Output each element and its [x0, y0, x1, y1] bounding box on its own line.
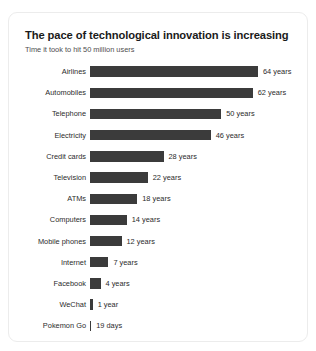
bar-track: 62 years	[90, 82, 308, 103]
bar-value-label: 12 years	[127, 231, 155, 252]
bar-row: Internet7 years	[9, 252, 308, 273]
bar-fill	[90, 130, 211, 140]
bar-category-label: Computers	[9, 209, 86, 230]
bar-value-label: 46 years	[216, 125, 244, 146]
bar-category-label: Mobile phones	[9, 231, 86, 252]
bar-track: 19 days	[90, 315, 308, 336]
bar-track: 7 years	[90, 252, 308, 273]
bar-fill	[90, 172, 148, 182]
bar-track: 46 years	[90, 125, 308, 146]
bar-fill	[90, 236, 122, 246]
bar-fill	[90, 299, 93, 309]
bar-category-label: Airlines	[9, 61, 86, 82]
bar-fill	[90, 88, 253, 98]
bar-row: Electricity46 years	[9, 125, 308, 146]
bar-value-label: 62 years	[258, 82, 286, 103]
bar-category-label: Automobiles	[9, 82, 86, 103]
bar-value-label: 18 years	[142, 188, 170, 209]
chart-card: The pace of technological innovation is …	[8, 12, 308, 342]
bar-track: 50 years	[90, 103, 308, 124]
bar-row: Credit cards28 years	[9, 146, 308, 167]
bar-row: Automobiles62 years	[9, 82, 308, 103]
bar-value-label: 19 days	[96, 315, 122, 336]
bar-value-label: 64 years	[263, 61, 291, 82]
bar-row: Computers14 years	[9, 209, 308, 230]
bar-track: 18 years	[90, 188, 308, 209]
bar-fill	[90, 66, 258, 76]
bar-row: Television22 years	[9, 167, 308, 188]
bar-row: Facebook4 years	[9, 273, 308, 294]
bar-track: 1 year	[90, 294, 308, 315]
bar-row: Pokemon Go19 days	[9, 315, 308, 336]
bar-category-label: Internet	[9, 252, 86, 273]
bar-track: 4 years	[90, 273, 308, 294]
bar-fill	[90, 215, 127, 225]
bar-track: 28 years	[90, 146, 308, 167]
bar-category-label: Telephone	[9, 103, 86, 124]
bar-value-label: 4 years	[106, 273, 130, 294]
bar-chart-plot-area: Airlines64 yearsAutomobiles62 yearsTelep…	[9, 61, 308, 341]
bar-fill	[90, 194, 137, 204]
bar-category-label: Pokemon Go	[9, 315, 86, 336]
bar-category-label: ATMs	[9, 188, 86, 209]
bar-value-label: 22 years	[153, 167, 181, 188]
bar-track: 12 years	[90, 231, 308, 252]
bar-value-label: 28 years	[169, 146, 197, 167]
bar-track: 22 years	[90, 167, 308, 188]
bar-value-label: 50 years	[226, 103, 254, 124]
bar-category-label: Facebook	[9, 273, 86, 294]
bar-category-label: Credit cards	[9, 146, 86, 167]
bar-row: ATMs18 years	[9, 188, 308, 209]
bar-track: 14 years	[90, 209, 308, 230]
bar-fill	[90, 278, 101, 288]
bar-row: Telephone50 years	[9, 103, 308, 124]
chart-title: The pace of technological innovation is …	[25, 29, 295, 42]
chart-subtitle: Time it took to hit 50 million users	[25, 45, 295, 55]
bar-fill	[90, 109, 221, 119]
bar-row: Mobile phones12 years	[9, 231, 308, 252]
bar-fill	[90, 257, 108, 267]
bar-track: 64 years	[90, 61, 308, 82]
bar-value-label: 14 years	[132, 209, 160, 230]
bar-value-label: 1 year	[98, 294, 119, 315]
bar-category-label: Electricity	[9, 125, 86, 146]
bar-row: Airlines64 years	[9, 61, 308, 82]
bar-fill	[90, 321, 91, 331]
bar-fill	[90, 151, 164, 161]
bar-row: WeChat1 year	[9, 294, 308, 315]
bar-category-label: Television	[9, 167, 86, 188]
bar-value-label: 7 years	[113, 252, 137, 273]
bar-category-label: WeChat	[9, 294, 86, 315]
